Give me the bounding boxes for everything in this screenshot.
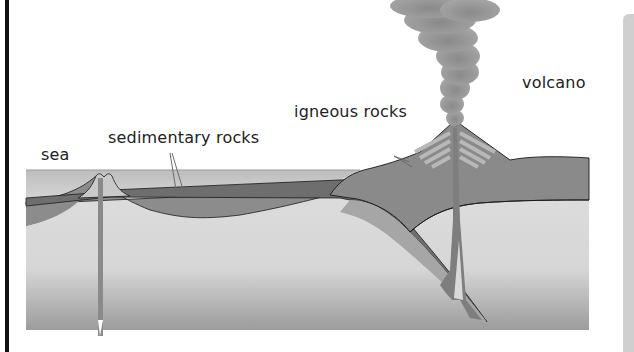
cross-section-diagram — [0, 0, 634, 352]
label-volcano: volcano — [522, 73, 586, 92]
label-sedimentary-rocks: sedimentary rocks — [108, 128, 259, 147]
ridge-dyke — [98, 178, 103, 336]
label-sea: sea — [41, 145, 70, 164]
label-igneous-rocks: igneous rocks — [294, 102, 407, 121]
